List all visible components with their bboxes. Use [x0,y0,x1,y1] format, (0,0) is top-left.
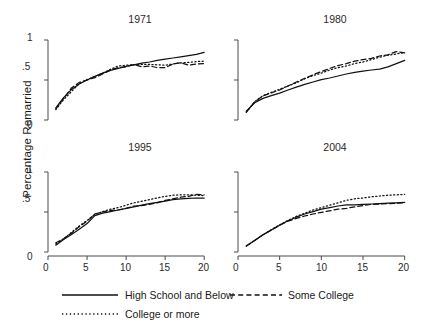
legend-label-college-or-more: College or more [125,308,200,320]
legend-lines [0,0,438,331]
legend-label-some-college: Some College [288,289,354,301]
legend-label-high-school: High School and Below [125,289,234,301]
figure-panel-grid: Percentage Remarried 1971 1980 1995 2004… [0,0,438,331]
